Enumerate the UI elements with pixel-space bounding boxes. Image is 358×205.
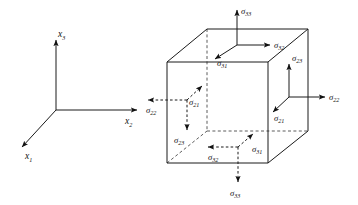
label-sigma-21-left: σ21 (189, 97, 199, 108)
label-sigma-22-left: σ22 (146, 105, 156, 116)
label-sigma-33-bottom: σ33 (230, 188, 240, 199)
label-sigma-23-right: σ23 (292, 53, 302, 64)
stress-group-top-face: σ33 σ32 σ31 (215, 6, 284, 69)
label-sigma-32-bottom: σ32 (208, 152, 218, 163)
label-sigma-22-right: σ22 (329, 92, 339, 103)
figure-canvas: x3 x2 x1 (0, 0, 358, 205)
cube-edge-bottom-right-diagonal (268, 131, 308, 163)
stress-group-right-face: σ23 σ22 σ21 (273, 53, 339, 124)
label-sigma-33-top: σ33 (241, 6, 251, 17)
cube-edge-bottom-left-diagonal (167, 131, 207, 163)
label-sigma-31-top: σ31 (217, 58, 227, 69)
axis-label-x1: x1 (24, 151, 32, 163)
stress-group-left-face: σ22 σ21 σ23 (146, 86, 202, 146)
label-sigma-31-bottom: σ31 (252, 144, 262, 155)
arrow-sigma-21-right (273, 97, 289, 112)
axis-label-x2: x2 (124, 116, 132, 128)
cartesian-axes-triad: x3 x2 x1 (22, 29, 137, 163)
arrow-sigma-31-top (215, 45, 237, 59)
label-sigma-23-left: σ23 (174, 135, 184, 146)
stress-element-cube (167, 29, 308, 163)
cube-edge-top-left-diagonal (167, 29, 207, 62)
axis-x1-line (22, 110, 56, 147)
label-sigma-21-right: σ21 (274, 113, 284, 124)
stress-group-bottom-face: σ33 σ32 σ31 (208, 134, 262, 199)
label-sigma-32-top: σ32 (274, 40, 284, 51)
axis-label-x3: x3 (57, 29, 65, 41)
arrow-sigma-31-bottom (238, 134, 253, 147)
stress-element-figure: x3 x2 x1 (0, 0, 358, 205)
